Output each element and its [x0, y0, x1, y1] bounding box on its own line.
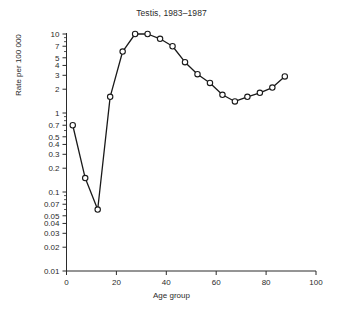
data-point — [107, 94, 112, 99]
data-point — [232, 99, 237, 104]
y-tick-label: 0.1 — [48, 188, 60, 197]
y-tick-label: 0.03 — [44, 229, 60, 238]
data-point — [182, 59, 187, 64]
data-point — [83, 175, 88, 180]
y-tick-label: 0.2 — [48, 164, 60, 173]
y-tick-label: 4 — [55, 61, 60, 70]
x-axis-ticks: 020406080100 — [64, 271, 323, 287]
x-tick-label: 60 — [212, 278, 221, 287]
x-tick-label: 40 — [162, 278, 171, 287]
y-axis-ticks: 107543210.70.50.40.30.20.10.070.050.040.… — [44, 30, 67, 276]
y-tick-label: 0.02 — [44, 243, 60, 252]
y-tick-label: 3 — [55, 71, 60, 80]
data-point — [220, 92, 225, 97]
y-tick-label: 0.04 — [44, 219, 60, 228]
data-point — [257, 90, 262, 95]
data-point — [170, 44, 175, 49]
y-tick-label: 0.4 — [48, 140, 60, 149]
chart-figure: Testis, 1983–1987 Rate per 100 000 Age g… — [0, 0, 343, 315]
x-tick-label: 80 — [262, 278, 271, 287]
data-point — [132, 31, 137, 36]
y-tick-label: 0.07 — [44, 200, 60, 209]
y-tick-label: 7 — [55, 42, 60, 51]
x-tick-label: 100 — [309, 278, 323, 287]
data-point — [282, 74, 287, 79]
data-point — [195, 71, 200, 76]
y-tick-label: 1 — [55, 109, 60, 118]
data-point — [95, 207, 100, 212]
y-tick-label: 0.01 — [44, 267, 60, 276]
data-point — [207, 80, 212, 85]
data-point — [245, 94, 250, 99]
data-point — [70, 123, 75, 128]
y-tick-label: 10 — [51, 30, 60, 39]
plot-area: 107543210.70.50.40.30.20.10.070.050.040.… — [0, 0, 343, 315]
data-point — [157, 36, 162, 41]
data-point — [120, 49, 125, 54]
x-tick-label: 0 — [64, 278, 69, 287]
y-tick-label: 0.7 — [48, 121, 60, 130]
data-point — [145, 31, 150, 36]
data-point — [270, 85, 275, 90]
data-line — [73, 34, 285, 210]
data-markers — [70, 31, 287, 212]
y-tick-label: 0.3 — [48, 150, 60, 159]
y-tick-label: 2 — [55, 85, 60, 94]
x-tick-label: 20 — [112, 278, 121, 287]
